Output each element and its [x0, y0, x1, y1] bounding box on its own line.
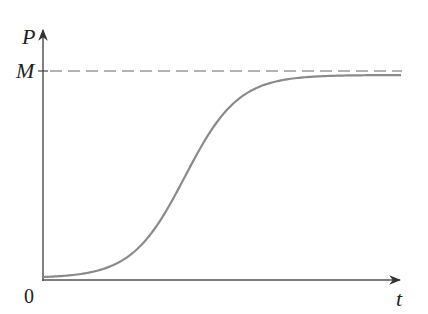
- logistic-curve: [43, 75, 401, 277]
- x-axis-label: t: [396, 288, 402, 310]
- logistic-chart: [0, 0, 428, 314]
- origin-label: 0: [24, 286, 34, 306]
- y-axis-label: P: [22, 26, 35, 48]
- asymptote-label: M: [16, 60, 34, 82]
